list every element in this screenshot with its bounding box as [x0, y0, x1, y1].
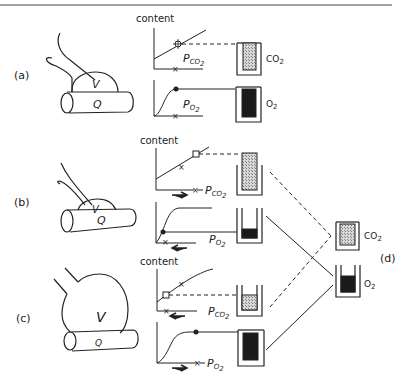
o2-content-graph-b: × PO2: [156, 202, 238, 251]
o2-container-label: O2: [266, 99, 278, 111]
open-square-marker: [163, 292, 169, 298]
open-square-marker: [193, 151, 199, 157]
x-marker: ×: [178, 163, 185, 172]
co2-container-label: CO2: [266, 54, 284, 66]
alveolus-label-a: V: [92, 78, 101, 91]
lung-unit-a: V Q: [46, 33, 133, 113]
x-axis-label: PO2: [207, 357, 224, 373]
mixing-lines: [266, 172, 333, 350]
panel-d-mixed: CO2 (d) O2: [336, 222, 396, 297]
right-shift-arrow: [172, 192, 187, 198]
y-axis-label: content: [136, 13, 174, 24]
o2-container-a: O2: [236, 87, 278, 122]
o2-container-d: O2: [336, 265, 376, 297]
panel-c-label: (c): [16, 312, 31, 325]
lung-unit-c: V Q: [54, 268, 138, 351]
x-axis-label: PCO2: [208, 305, 230, 321]
x-axis-label: PCO2: [183, 52, 205, 68]
capillary-label-c: Q: [95, 338, 102, 348]
x-marker: ×: [178, 280, 185, 289]
x-axis-label: PCO2: [205, 184, 227, 200]
filled-dot-marker: [194, 330, 199, 335]
panel-c: (c) V Q content × × PCO2 ×: [16, 256, 264, 373]
left-shift-arrow: [170, 313, 185, 319]
panel-d-label: (d): [380, 252, 396, 265]
capillary-label-a: Q: [93, 98, 102, 111]
co2-content-graph-b: content × × PCO2: [140, 135, 238, 200]
x-marker: ×: [172, 65, 179, 74]
capillary-label-b: Q: [97, 214, 106, 227]
y-axis-label: content: [140, 256, 178, 267]
x-marker: ×: [162, 238, 169, 247]
panel-a-label: (a): [14, 69, 29, 82]
co2-container-a: CO2: [237, 43, 284, 75]
o2-container-label: O2: [364, 279, 376, 291]
panel-b: (b) V Q content × × PCO2: [14, 135, 262, 251]
x-marker: ×: [163, 307, 170, 316]
y-axis-label: content: [140, 135, 178, 146]
co2-container-d: CO2: [336, 222, 382, 250]
o2-content-graph-a: × PO2: [154, 80, 235, 121]
panel-a: (a) V Q content × PCO2: [14, 13, 284, 122]
co2-container-c: [237, 285, 262, 316]
alveolus-label-c: V: [96, 309, 107, 325]
panel-b-label: (b): [14, 196, 30, 209]
left-shift-arrow: [172, 245, 187, 251]
o2-container-b: [237, 208, 262, 243]
filled-dot-marker: [174, 87, 179, 92]
x-marker: ×: [172, 112, 179, 121]
co2-content-graph-a: content × PCO2: [136, 13, 236, 74]
x-axis-label: PO2: [183, 98, 200, 114]
right-shift-arrow: [172, 365, 187, 371]
co2-container-b: [237, 153, 262, 195]
o2-container-c: [238, 330, 264, 366]
x-axis-label: PO2: [209, 233, 226, 249]
o2-content-graph-c: × PO2: [157, 322, 239, 373]
lung-unit-b: V Q: [58, 163, 136, 232]
ventilation-perfusion-diagram: (a) V Q content × PCO2: [0, 0, 411, 383]
co2-container-label: CO2: [364, 231, 382, 243]
co2-content-graph-c: content × × PCO2: [140, 256, 238, 321]
